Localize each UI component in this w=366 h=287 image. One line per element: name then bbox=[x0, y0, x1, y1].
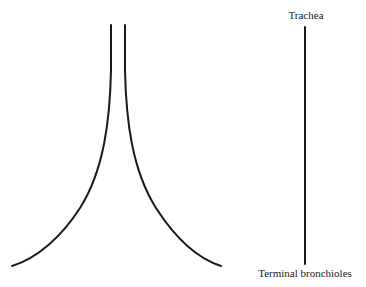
trachea-label: Trachea bbox=[288, 9, 323, 21]
airway-right-wall bbox=[125, 25, 221, 266]
airway-left-wall bbox=[12, 25, 111, 266]
terminal-bronchioles-label: Terminal bronchioles bbox=[258, 267, 352, 279]
airway-diagram: Trachea Terminal bronchioles bbox=[0, 0, 366, 287]
